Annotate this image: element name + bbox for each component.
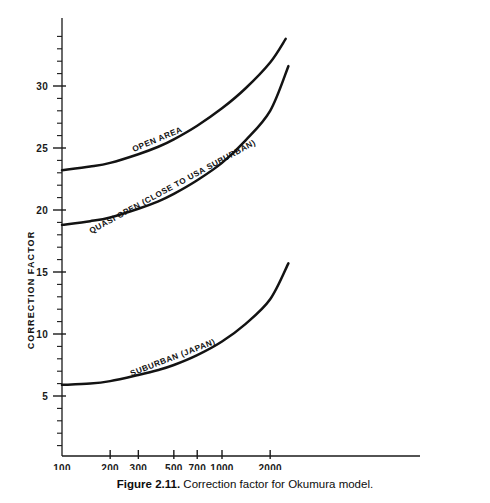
y-axis-title: CORRECTION FACTOR [26, 231, 36, 350]
y-tick-label: 15 [36, 267, 48, 278]
x-tick-label: 500 [165, 463, 183, 470]
figure-container: 51015202530 10020030050070010002000 CORR… [0, 0, 490, 503]
x-tick-label: 300 [130, 463, 148, 470]
curve-line [62, 39, 286, 170]
x-tick-label: 200 [101, 463, 119, 470]
x-tick-label: 1000 [210, 463, 234, 470]
y-tick-label: 10 [36, 329, 48, 340]
curve-label-3: SUBURBAN (JAPAN) [129, 337, 217, 378]
caption-label: Figure 2.11. [117, 478, 180, 490]
curve-label-2: QUASI OPEN (CLOSE TO USA SUBURBAN) [88, 138, 258, 235]
y-tick-label: 25 [36, 143, 48, 154]
x-axis-ticks: 10020030050070010002000 [53, 450, 282, 470]
y-tick-label: 20 [36, 205, 48, 216]
y-tick-label: 5 [42, 391, 48, 402]
figure-caption: Figure 2.11. Correction factor for Okumu… [0, 478, 490, 490]
x-tick-label: 2000 [258, 463, 282, 470]
curve-line [62, 263, 288, 385]
caption-text: Correction factor for Okumura model. [183, 478, 373, 490]
y-tick-label: 30 [36, 81, 48, 92]
chart-plot: 51015202530 10020030050070010002000 CORR… [0, 0, 490, 470]
x-tick-label: 700 [188, 463, 206, 470]
data-curves [62, 39, 288, 385]
x-tick-label: 100 [53, 463, 71, 470]
